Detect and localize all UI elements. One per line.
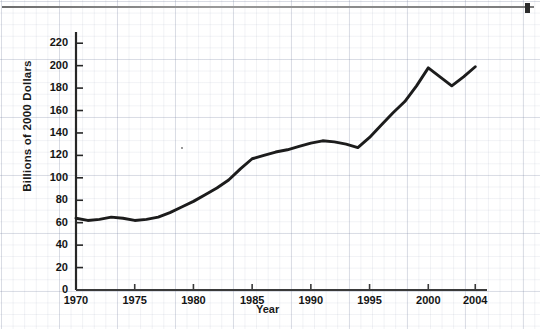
y-tick-label: 160 (30, 104, 68, 116)
y-tick-label: 200 (30, 59, 68, 71)
x-tick-label: 1990 (286, 294, 336, 306)
y-tick-label: 20 (30, 261, 68, 273)
y-tick-label: 120 (30, 148, 68, 160)
chart-canvas (0, 0, 540, 329)
y-tick-label: 80 (30, 193, 68, 205)
line-chart: Billions of 2000 Dollars Year 0204060801… (0, 0, 540, 329)
y-tick-label: 60 (30, 216, 68, 228)
x-tick-label: 2004 (450, 294, 500, 306)
x-tick-label: 2000 (403, 294, 453, 306)
data-series-line (76, 67, 475, 221)
y-tick-label: 180 (30, 81, 68, 93)
y-tick-label: 40 (30, 238, 68, 250)
x-tick-label: 1995 (345, 294, 395, 306)
y-tick-label: 100 (30, 171, 68, 183)
x-tick-label: 1980 (168, 294, 218, 306)
stray-speck (181, 147, 183, 149)
x-tick-label: 1985 (227, 294, 277, 306)
x-tick-label: 1975 (110, 294, 160, 306)
y-tick-label: 140 (30, 126, 68, 138)
x-tick-label: 1970 (51, 294, 101, 306)
y-tick-label: 220 (30, 36, 68, 48)
